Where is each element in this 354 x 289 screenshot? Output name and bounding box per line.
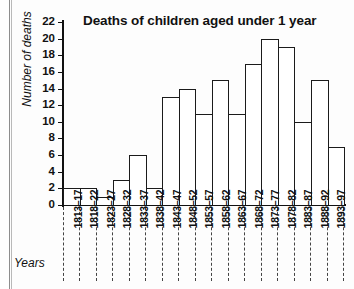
x-axis-label-cell: 1828–32 [113,207,129,281]
x-axis-label-cell: 1863–67 [229,207,245,281]
x-axis-label-cell: 1878–82 [278,207,294,281]
page-gutter-line [11,0,12,289]
y-axis-tick-label: 8 [49,130,55,144]
bar-series [63,22,344,205]
bar [245,64,263,205]
y-axis-tick-label: 10 [42,114,55,128]
y-axis-tick-label: 16 [42,64,55,78]
x-axis-label-cell: 1838–42 [146,207,162,281]
x-axis-label-cell: 1873–77 [262,207,278,281]
bar [278,47,296,205]
y-axis-title: Number of deaths [20,0,34,124]
x-axis-label-cell: 1843–47 [163,207,179,281]
x-axis-title: Years [14,256,45,270]
page-gutter [0,0,10,289]
bar [311,80,329,205]
x-axis-label-cell: 1833–37 [130,207,146,281]
bar [261,39,279,205]
plot-area: 2220181614121086420 [63,22,344,205]
x-axis-label-cell: 1823–27 [97,207,113,281]
x-axis-label-cell: 1893–97 [328,207,344,281]
x-axis-label-cell: 1853–57 [196,207,212,281]
y-axis-tick-label: 20 [42,31,55,45]
x-axis-label: 1893–97 [335,190,347,229]
bar [179,89,197,205]
chart-page: Deaths of children aged under 1 year Num… [0,0,354,289]
y-axis-tick-label: 2 [49,180,55,194]
y-axis-tick-label: 12 [42,97,55,111]
x-axis-label-cell: 1858–62 [212,207,228,281]
x-axis-label-cell: 1848–52 [179,207,195,281]
y-axis-tick: 0 [58,205,63,206]
bar [212,80,230,205]
x-axis-label-cell: 1883–87 [295,207,311,281]
x-axis-label-cell: 1868–72 [245,207,261,281]
y-axis-tick-label: 22 [42,14,55,28]
y-axis-tick-label: 14 [42,81,55,95]
x-axis-label-cell: 1818–22 [80,207,96,281]
x-axis-labels: 1813–171818–221823–271828–321833–371838–… [63,207,344,281]
x-axis-label-cell: 1888–92 [311,207,327,281]
y-axis-tick-label: 6 [49,147,55,161]
y-axis-tick-label: 4 [49,164,55,178]
y-axis-tick-label: 18 [42,47,55,61]
y-axis-tick-label: 0 [49,197,55,211]
x-axis-label-cell: 1813–17 [63,207,80,281]
